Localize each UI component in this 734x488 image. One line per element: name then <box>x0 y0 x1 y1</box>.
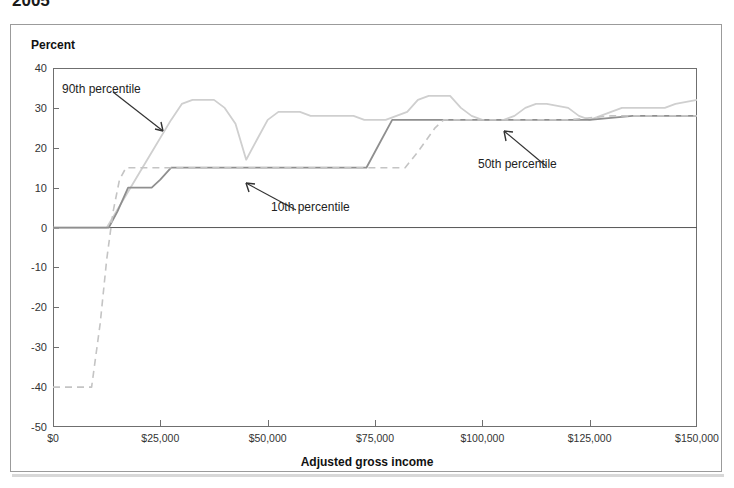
panel-shadow <box>12 474 724 477</box>
y-tick-label-40: 40 <box>21 62 47 74</box>
y-axis-title: Percent <box>31 38 75 52</box>
x-axis-title: Adjusted gross income <box>0 455 734 469</box>
annotation-10th-percentile: 10th percentile <box>271 200 350 214</box>
x-tick-label-6: $150,000 <box>662 432 732 444</box>
x-tick-mark-2 <box>268 420 269 427</box>
y-tick-mark--40 <box>53 387 59 388</box>
y-tick-mark-20 <box>53 148 59 149</box>
x-tick-label-2: $50,000 <box>233 432 303 444</box>
x-tick-label-4: $100,000 <box>447 432 517 444</box>
y-tick-label--40: -40 <box>21 381 47 393</box>
x-tick-mark-1 <box>160 420 161 427</box>
chart-page: 2005 Percent 403020100-10-20-30-40-50 $0… <box>0 0 734 488</box>
y-tick-label-30: 30 <box>21 102 47 114</box>
y-tick-label--30: -30 <box>21 341 47 353</box>
x-tick-label-1: $25,000 <box>125 432 195 444</box>
x-tick-label-0: $0 <box>18 432 88 444</box>
y-tick-mark--20 <box>53 307 59 308</box>
y-tick-label-20: 20 <box>21 142 47 154</box>
y-tick-label-10: 10 <box>21 182 47 194</box>
y-tick-label-0: 0 <box>21 222 47 234</box>
y-tick-mark-0 <box>53 228 59 229</box>
x-tick-label-3: $75,000 <box>340 432 410 444</box>
annotation-50th-percentile: 50th percentile <box>478 157 557 171</box>
annotation-90th-percentile: 90th percentile <box>62 82 141 96</box>
y-tick-mark-30 <box>53 108 59 109</box>
y-tick-mark--30 <box>53 347 59 348</box>
x-tick-label-5: $125,000 <box>555 432 625 444</box>
y-tick-mark-10 <box>53 188 59 189</box>
y-tick-label--20: -20 <box>21 301 47 313</box>
page-title: 2005 <box>12 0 50 6</box>
plot-area <box>53 68 697 427</box>
y-tick-label--10: -10 <box>21 261 47 273</box>
x-tick-mark-5 <box>590 420 591 427</box>
x-tick-mark-3 <box>375 420 376 427</box>
y-tick-mark--10 <box>53 267 59 268</box>
x-tick-mark-4 <box>482 420 483 427</box>
